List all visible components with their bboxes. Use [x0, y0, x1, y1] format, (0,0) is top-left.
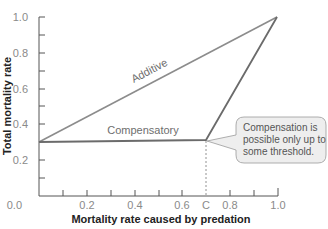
callout-text-line-2: possible only up to: [243, 134, 326, 145]
x-tick-label: 0.8: [222, 199, 237, 211]
x-tick-label: 1.0: [270, 199, 285, 211]
y-tick-label: 0.0: [7, 199, 22, 211]
y-tick-label: 0.8: [13, 47, 28, 59]
callout-text-line-1: Compensation is: [243, 122, 317, 133]
y-tick-label: 0.2: [13, 154, 28, 166]
x-tick-label: 0.2: [79, 199, 94, 211]
callout-text-line-3: some threshold.: [243, 146, 314, 157]
x-axis: [39, 188, 278, 196]
y-axis-title: Total mortality rate: [1, 57, 13, 155]
additive-label: Additive: [129, 56, 169, 85]
compensatory-label: Compensatory: [107, 124, 179, 136]
y-tick-label: 0.6: [13, 83, 28, 95]
x-tick-label: 0.4: [127, 199, 142, 211]
mortality-chart: 1.0 0.8 0.6 0.4 0.2 0.0 0.2 0.4 0.6 C 0.…: [0, 0, 328, 229]
callout: Compensation is possible only up to some…: [207, 117, 326, 163]
x-axis-title: Mortality rate caused by predation: [71, 213, 250, 225]
y-tick-label: 0.4: [13, 118, 28, 130]
y-axis: [39, 17, 45, 196]
y-tick-label: 1.0: [13, 11, 28, 23]
x-tick-label: 0.6: [174, 199, 189, 211]
x-tick-label-threshold: C: [202, 199, 210, 211]
